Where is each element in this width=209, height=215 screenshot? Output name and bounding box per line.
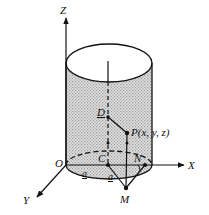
label-p: P(x, y, z) <box>130 126 170 139</box>
y-axis <box>37 165 66 197</box>
cylinder-diagram: Z X Y O D P(x, y, z) C N M a a <box>0 0 209 215</box>
z-axis-label: Z <box>60 4 67 16</box>
point-d <box>106 115 110 119</box>
label-d: D <box>96 106 105 118</box>
origin-label: O <box>55 157 63 169</box>
label-m: M <box>119 193 130 205</box>
point-c <box>106 163 110 167</box>
tick-p-lower <box>126 142 129 145</box>
label-n: N <box>133 152 142 164</box>
label-length-oc: a <box>82 168 87 179</box>
x-axis-label: X <box>187 159 196 171</box>
label-length-cm: a <box>108 171 113 182</box>
y-axis-label: Y <box>23 194 31 206</box>
cylinder-top <box>66 44 152 82</box>
label-c: C <box>98 152 106 164</box>
point-n <box>143 163 147 167</box>
tick-center-upper <box>107 142 110 145</box>
point-m <box>124 186 128 190</box>
point-p <box>125 131 129 135</box>
